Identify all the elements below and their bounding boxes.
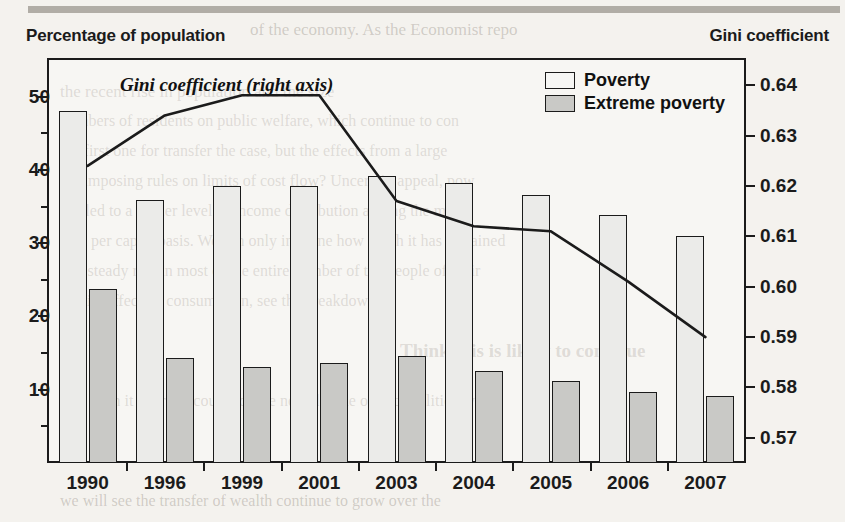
x-axis-tick-label: 2007 (684, 472, 726, 494)
y2-axis-tick-label: 0.57 (760, 428, 797, 447)
x-axis-tick-label: 2005 (530, 472, 572, 494)
bar-extreme-poverty (629, 392, 657, 463)
bar-poverty (290, 186, 318, 463)
y-axis-tick-label: 50 (0, 87, 50, 106)
y2-axis-tick (746, 235, 755, 237)
x-axis-tick (126, 463, 128, 471)
bar-extreme-poverty (398, 356, 426, 463)
x-axis-tick (281, 463, 283, 471)
x-axis-tick-label: 2006 (607, 472, 649, 494)
y2-axis-tick (746, 135, 755, 137)
y-axis-minor-tick (41, 279, 47, 281)
bar-extreme-poverty (243, 367, 271, 463)
legend-swatch-extreme-poverty-icon (545, 95, 575, 112)
legend-item-poverty: Poverty (545, 70, 725, 91)
x-axis-tick-label: 1996 (144, 472, 186, 494)
y-axis-tick-label: 30 (0, 233, 50, 252)
bleed-text: we will see the transfer of wealth conti… (60, 492, 441, 510)
bar-poverty (599, 215, 627, 463)
x-axis-tick (435, 463, 437, 471)
bar-extreme-poverty (89, 289, 117, 463)
bar-poverty (136, 200, 164, 463)
bar-poverty (522, 195, 550, 463)
gini-line-annotation: Gini coefficient (right axis) (120, 74, 333, 96)
x-axis-tick (203, 463, 205, 471)
y2-axis-tick-label: 0.59 (760, 327, 797, 346)
y-axis-tick-label: 20 (0, 306, 50, 325)
bar-poverty (213, 186, 241, 463)
left-axis-title: Percentage of population (26, 26, 225, 46)
y2-axis-tick (746, 84, 755, 86)
bar-extreme-poverty (166, 358, 194, 463)
y2-axis-tick (746, 286, 755, 288)
bar-poverty (445, 183, 473, 463)
scanned-page: of the economy. As the Economist repo th… (0, 0, 845, 522)
bar-poverty (676, 236, 704, 463)
x-axis-tick-label: 1990 (66, 472, 108, 494)
y2-axis-tick-label: 0.62 (760, 176, 797, 195)
chart-legend: Poverty Extreme poverty (545, 70, 725, 115)
bar-extreme-poverty (320, 363, 348, 463)
y-axis-minor-tick (41, 206, 47, 208)
bar-extreme-poverty (706, 396, 734, 463)
y-axis-tick-label: 10 (0, 380, 50, 399)
legend-item-extreme-poverty: Extreme poverty (545, 93, 725, 114)
y-axis-minor-tick (41, 425, 47, 427)
y2-axis-tick-label: 0.64 (760, 75, 797, 94)
y-axis-tick-label: 40 (0, 160, 50, 179)
page-top-rule (28, 6, 840, 13)
legend-label-extreme-poverty: Extreme poverty (584, 93, 725, 114)
y2-axis-tick (746, 336, 755, 338)
x-axis-tick-label: 1999 (221, 472, 263, 494)
x-axis-tick-label: 2001 (298, 472, 340, 494)
y2-axis-tick-label: 0.63 (760, 126, 797, 145)
x-axis-tick (667, 463, 669, 471)
legend-label-poverty: Poverty (584, 70, 650, 91)
y2-axis-tick (746, 386, 755, 388)
legend-swatch-poverty-icon (545, 72, 575, 89)
y-axis-minor-tick (41, 352, 47, 354)
y2-axis-tick (746, 437, 755, 439)
bar-poverty (368, 176, 396, 463)
right-axis-title: Gini coefficient (709, 26, 829, 46)
y2-axis-tick (746, 185, 755, 187)
x-axis-tick (590, 463, 592, 471)
x-axis-tick (512, 463, 514, 471)
y2-axis-tick-label: 0.61 (760, 226, 797, 245)
bleed-text: of the economy. As the Economist repo (250, 20, 518, 40)
y-axis-minor-tick (41, 132, 47, 134)
x-axis-tick (358, 463, 360, 471)
x-axis-tick-label: 2003 (375, 472, 417, 494)
y2-axis-tick-label: 0.60 (760, 277, 797, 296)
bar-extreme-poverty (552, 381, 580, 463)
bar-poverty (59, 111, 87, 463)
y2-axis-tick-label: 0.58 (760, 377, 797, 396)
x-axis-tick-label: 2004 (453, 472, 495, 494)
bar-extreme-poverty (475, 371, 503, 463)
